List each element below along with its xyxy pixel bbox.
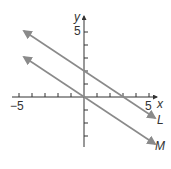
y-ticks	[84, 32, 88, 136]
x-axis-label: x	[156, 97, 164, 111]
line-L-label: L	[157, 113, 164, 127]
y-max-tick-label: 5	[74, 24, 81, 38]
x-max-tick-label: 5	[145, 99, 152, 113]
line-M	[24, 57, 155, 144]
line-M-label: M	[155, 139, 165, 153]
x-min-tick-label: −5	[10, 99, 24, 113]
y-axis-label: y	[73, 10, 81, 24]
line-L	[24, 31, 155, 118]
coordinate-plane: −5 5 x 5 y L M	[0, 0, 171, 169]
